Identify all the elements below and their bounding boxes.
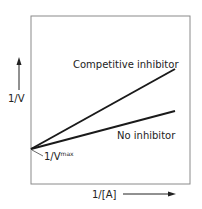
no-inhibitor-label: No inhibitor	[117, 130, 176, 141]
y-axis-label: 1/V	[8, 93, 25, 104]
intercept-label-sup: max	[61, 150, 75, 157]
y-axis-arrow-icon	[17, 57, 22, 65]
intercept-leader-line	[32, 150, 43, 156]
x-axis-arrow-icon	[168, 192, 176, 197]
intercept-label: 1/Vmax	[44, 150, 74, 162]
competitive-inhibitor-label: Competitive inhibitor	[73, 59, 179, 70]
x-axis-label: 1/[A]	[92, 189, 116, 200]
intercept-label-main: 1/V	[44, 151, 61, 162]
lineweaver-burk-diagram: Competitive inhibitor No inhibitor 1/V 1…	[0, 0, 202, 209]
